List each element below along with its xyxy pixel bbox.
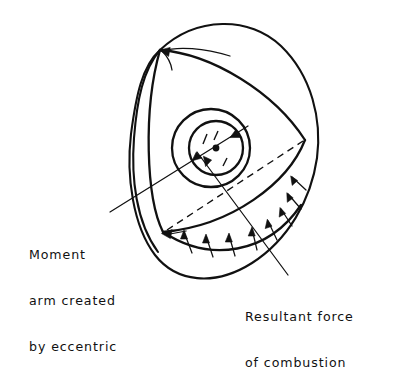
moment-arm-caption-line-3: by eccentric [29,339,117,354]
pressure-arrow [225,233,235,256]
moment-arm-dashed-axis [167,141,303,230]
pressure-arrow [287,193,301,209]
housing-inner-wall-line [133,50,160,252]
resultant-force-caption: Resultant force of combustion [245,279,354,371]
pressure-arrow [203,234,214,257]
pressure-arrow [291,176,306,190]
moment-arm-caption-line-1: Moment [29,247,117,262]
eccentric-hub-group [172,109,250,187]
rotor-flank-left [149,50,163,232]
rotor-flank-bottom-right [163,140,305,232]
moment-arm-caption: Moment arm created by eccentric [29,217,117,371]
moment-arm-caption-line-2: arm created [29,293,117,308]
combustion-pressure-arrows [181,176,307,257]
resultant-force-caption-line-1: Resultant force [245,309,354,324]
resultant-force-caption-line-2: of combustion [245,355,354,370]
